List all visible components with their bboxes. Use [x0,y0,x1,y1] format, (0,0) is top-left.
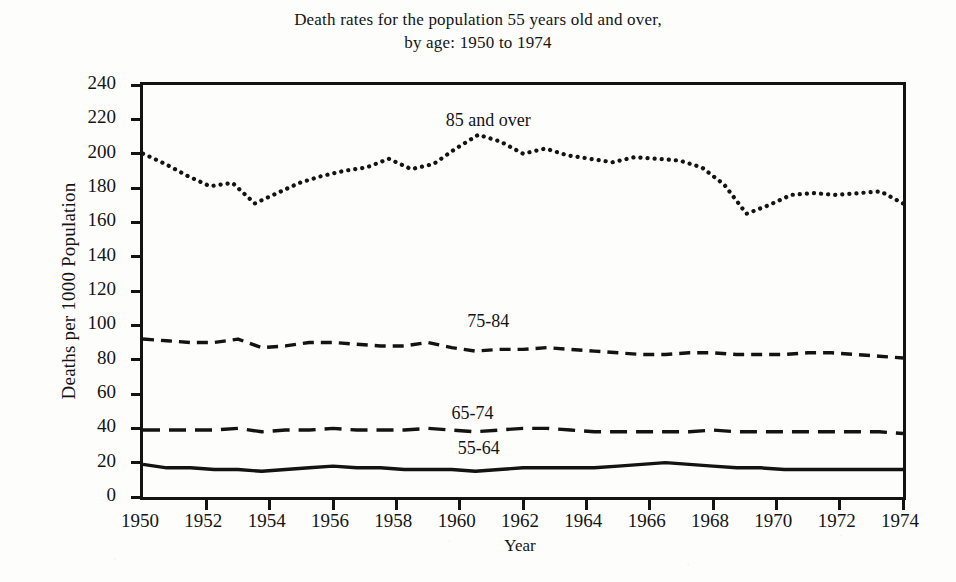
x-axis-tick [268,497,271,510]
y-axis-tick [131,255,143,258]
y-axis-tick-label: 80 [60,348,116,367]
y-axis-tick [131,358,143,361]
x-axis-tick [648,497,651,510]
series-lines [143,85,903,497]
series-label-55-64: 55-64 [458,439,500,457]
x-axis-tick [458,497,461,510]
chart-title-line-2: by age: 1950 to 1974 [0,31,956,54]
y-axis-tick-label: 220 [60,107,116,126]
plot-inner [143,85,903,497]
x-axis-tick [585,497,588,510]
x-axis-tick [712,497,715,510]
y-axis-tick-label: 200 [60,142,116,161]
series-line-75-84 [143,339,903,358]
x-axis-tick-label: 1952 [168,511,238,530]
x-axis-tick-label: 1962 [485,511,555,530]
y-axis-tick [131,84,143,87]
chart-page: Death rates for the population 55 years … [0,0,956,582]
series-line-65-74 [143,428,903,433]
chart-title-line-1: Death rates for the population 55 years … [0,8,956,31]
x-axis-tick-label: 1970 [738,511,808,530]
y-axis-tick-label: 20 [60,451,116,470]
x-axis-tick [775,497,778,510]
x-axis-tick-label: 1966 [612,511,682,530]
y-axis-tick-label: 100 [60,313,116,332]
x-axis-title: Year [140,536,900,556]
y-axis-tick [131,496,143,499]
series-line-85-and-over [143,135,903,214]
x-axis-tick-label: 1974 [865,511,935,530]
y-axis-tick [131,461,143,464]
x-axis-tick-label: 1958 [358,511,428,530]
y-axis-tick-label: 240 [60,73,116,92]
series-label-85-and-over: 85 and over [446,111,531,129]
y-axis-tick [131,290,143,293]
x-axis-tick [332,497,335,510]
y-axis-tick [131,152,143,155]
x-axis-tick-label: 1964 [548,511,618,530]
y-axis-tick [131,221,143,224]
y-axis-tick [131,187,143,190]
x-axis-tick [395,497,398,510]
x-axis-tick [522,497,525,510]
series-label-75-84: 75-84 [467,312,509,330]
y-axis-tick [131,427,143,430]
y-axis-tick-label: 160 [60,210,116,229]
y-axis-tick-label: 0 [60,485,116,504]
y-axis-tick-label: 180 [60,176,116,195]
x-axis-tick-label: 1972 [802,511,872,530]
plot-area [140,82,906,500]
x-axis-tick-label: 1954 [232,511,302,530]
y-axis-tick-label: 60 [60,382,116,401]
x-axis-tick-label: 1956 [295,511,365,530]
x-axis-tick-label: 1960 [422,511,492,530]
y-axis-tick-label: 120 [60,279,116,298]
series-line-55-64 [143,463,903,472]
x-axis-tick [838,497,841,510]
x-axis-tick-label: 1950 [105,511,175,530]
x-axis-tick [205,497,208,510]
chart-title: Death rates for the population 55 years … [0,8,956,54]
y-axis-tick [131,118,143,121]
y-axis-tick [131,324,143,327]
y-axis-tick [131,393,143,396]
y-axis-tick-label: 140 [60,245,116,264]
x-axis-tick [902,497,905,510]
y-axis-tick-label: 40 [60,416,116,435]
series-label-65-74: 65-74 [452,404,494,422]
x-axis-tick-label: 1968 [675,511,745,530]
